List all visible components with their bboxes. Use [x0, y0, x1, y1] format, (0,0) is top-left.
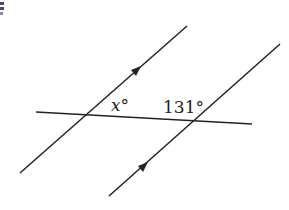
arrow-icon [138, 162, 148, 172]
angle-label-x: x° [111, 95, 129, 115]
corner-mark [0, 2, 4, 5]
corner-mark [0, 7, 4, 10]
corner-mark [0, 12, 3, 15]
diagram-canvas: x° 131° [0, 0, 289, 210]
transversal-line [36, 112, 252, 124]
parallel-line-2 [109, 44, 280, 196]
parallel-line-1 [20, 26, 187, 173]
angle-label-131: 131° [163, 97, 204, 117]
